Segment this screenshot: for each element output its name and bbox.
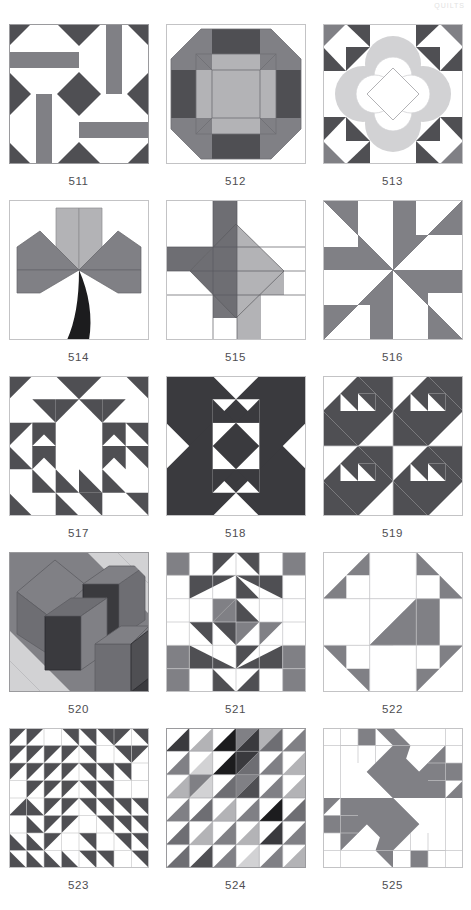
- block-image-522: [323, 552, 463, 692]
- block-caption-514: 514: [68, 351, 89, 363]
- block-image-524: [166, 728, 306, 868]
- block-cell-524[interactable]: 524: [157, 728, 314, 904]
- block-caption-525: 525: [382, 879, 403, 891]
- block-cell-513[interactable]: 513: [314, 24, 471, 200]
- block-image-515: [166, 200, 306, 340]
- block-caption-511: 511: [68, 175, 88, 187]
- block-caption-523: 523: [68, 879, 89, 891]
- block-cell-522[interactable]: 522: [314, 552, 471, 728]
- block-image-525: [323, 728, 463, 868]
- block-caption-516: 516: [382, 351, 403, 363]
- block-cell-520[interactable]: 520: [0, 552, 157, 728]
- catalog-page: QUILTS: [0, 0, 471, 910]
- block-image-517: [9, 376, 149, 516]
- block-cell-525[interactable]: 525: [314, 728, 471, 904]
- block-cell-523[interactable]: 523: [0, 728, 157, 904]
- block-caption-517: 517: [68, 527, 89, 539]
- block-image-516: [323, 200, 463, 340]
- block-image-518: [166, 376, 306, 516]
- block-caption-521: 521: [225, 703, 246, 715]
- block-cell-519[interactable]: 519: [314, 376, 471, 552]
- running-head: QUILTS: [434, 2, 465, 9]
- block-caption-512: 512: [225, 175, 246, 187]
- block-cell-515[interactable]: 515: [157, 200, 314, 376]
- block-caption-513: 513: [382, 175, 403, 187]
- block-image-519: [323, 376, 463, 516]
- block-caption-524: 524: [225, 879, 246, 891]
- block-cell-521[interactable]: 521: [157, 552, 314, 728]
- block-caption-518: 518: [225, 527, 246, 539]
- block-cell-512[interactable]: 512: [157, 24, 314, 200]
- block-image-514: [9, 200, 149, 340]
- block-image-523: [9, 728, 149, 868]
- block-caption-515: 515: [225, 351, 246, 363]
- block-cell-516[interactable]: 516: [314, 200, 471, 376]
- block-caption-520: 520: [68, 703, 89, 715]
- block-cell-518[interactable]: 518: [157, 376, 314, 552]
- block-grid: 511: [0, 24, 471, 904]
- block-cell-517[interactable]: 517: [0, 376, 157, 552]
- block-image-513: [323, 24, 463, 164]
- block-image-511: [9, 24, 149, 164]
- block-caption-519: 519: [382, 527, 403, 539]
- block-cell-514[interactable]: 514: [0, 200, 157, 376]
- block-cell-511[interactable]: 511: [0, 24, 157, 200]
- block-image-521: [166, 552, 306, 692]
- block-caption-522: 522: [382, 703, 403, 715]
- block-image-512: [166, 24, 306, 164]
- block-image-520: [9, 552, 149, 692]
